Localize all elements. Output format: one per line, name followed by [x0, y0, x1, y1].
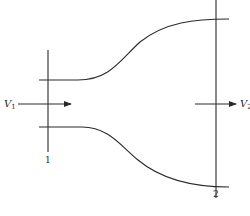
- outlet-velocity-label: V2: [240, 99, 250, 112]
- figure-caption: [96, 207, 136, 215]
- duct-lower-wall: [39, 127, 229, 187]
- section-2-label: 2: [213, 189, 219, 199]
- inlet-velocity-label: V1: [4, 99, 16, 112]
- inlet-velocity-subscript: 1: [11, 103, 15, 111]
- duct-upper-wall: [39, 19, 229, 80]
- duct-diagram: [0, 0, 250, 216]
- section-1-label: 1: [45, 155, 51, 165]
- outlet-velocity-subscript: 2: [247, 103, 250, 111]
